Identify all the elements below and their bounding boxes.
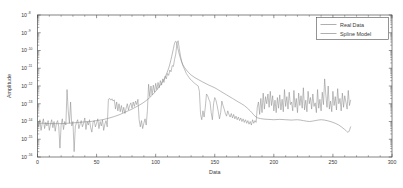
y-tick-label: 10-14	[21, 118, 32, 125]
y-tick-label: 10-10	[21, 47, 32, 54]
figure-container: 05010015020025030010-810-910-1010-1110-1…	[0, 0, 403, 188]
y-tick-label-exponent: -8	[28, 11, 31, 15]
x-tick-label: 100	[151, 159, 160, 165]
y-tick-label: 10-15	[21, 135, 32, 142]
y-tick-label-base: 10	[21, 101, 27, 107]
y-tick-label-base: 10	[21, 154, 27, 160]
y-tick-label-exponent: -14	[28, 118, 33, 122]
y-tick-label: 10-13	[21, 100, 32, 107]
y-tick-label-exponent: -12	[28, 82, 33, 86]
x-tick-label: 50	[94, 159, 100, 165]
y-tick-label-base: 10	[21, 83, 27, 89]
y-tick-label: 10-8	[21, 11, 30, 18]
y-tick-label-exponent: -9	[28, 29, 31, 33]
y-tick-label: 10-16	[21, 153, 32, 160]
y-tick-label: 10-9	[21, 29, 30, 36]
y-tick-label-base: 10	[21, 30, 27, 36]
y-tick-label-base: 10	[21, 65, 27, 71]
y-tick-label-base: 10	[21, 47, 27, 53]
y-tick-label: 10-11	[21, 64, 32, 71]
y-tick-label-base: 10	[21, 118, 27, 124]
y-tick-label: 10-12	[21, 82, 32, 89]
y-tick-label-base: 10	[21, 136, 27, 142]
chart-page: 05010015020025030010-810-910-1010-1110-1…	[0, 0, 403, 188]
y-tick-label-exponent: -13	[28, 100, 33, 104]
legend-label-spline-model: Spline Model	[340, 31, 371, 37]
semilog-chart: 05010015020025030010-810-910-1010-1110-1…	[0, 0, 403, 188]
series-real-data	[38, 41, 351, 152]
series-layer	[38, 41, 351, 152]
y-tick-label-exponent: -16	[28, 153, 33, 157]
y-tick-label-exponent: -15	[28, 135, 33, 139]
legend[interactable]: Real DataSpline Model	[317, 18, 389, 40]
x-axis-title: Data	[209, 169, 220, 175]
y-tick-label-exponent: -10	[28, 47, 33, 51]
legend-label-real-data: Real Data	[340, 22, 364, 28]
x-tick-label: 250	[329, 159, 338, 165]
x-tick-label: 150	[210, 159, 219, 165]
x-tick-label: 0	[36, 159, 39, 165]
x-tick-label: 200	[270, 159, 279, 165]
y-axis-title: Amplitude	[6, 74, 12, 98]
y-tick-label-base: 10	[21, 12, 27, 18]
y-tick-label-exponent: -11	[28, 64, 33, 68]
x-tick-label: 300	[388, 159, 397, 165]
